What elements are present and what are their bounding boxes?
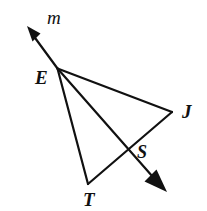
label-vertex-t: T	[83, 189, 96, 210]
label-ray-m: m	[47, 7, 61, 28]
label-vertex-s: S	[137, 142, 147, 162]
label-vertex-j: J	[181, 101, 192, 122]
geometry-diagram: m E J S T	[0, 0, 207, 211]
label-vertex-e: E	[34, 67, 48, 88]
